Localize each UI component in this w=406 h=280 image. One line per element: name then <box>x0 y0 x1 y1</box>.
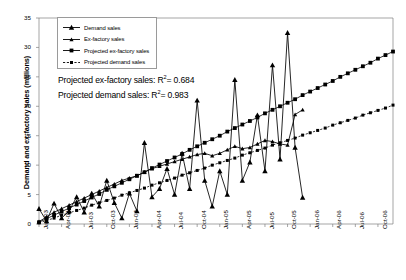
legend-item-demand-sales[interactable]: Demand sales <box>62 22 120 33</box>
legend-label: Demand sales <box>84 25 120 31</box>
superscript: 2 <box>157 89 160 95</box>
chart-container: Demand and ex-factory sales (millions) 0… <box>0 0 406 280</box>
superscript: 2 <box>164 74 167 80</box>
series-projected-demand-sales <box>38 104 395 225</box>
annotation-r2-exfactory: Projected ex-factory sales: R2= 0.684 <box>58 74 194 85</box>
legend-swatch-icon <box>62 35 81 44</box>
legend-item-ex-factory-sales[interactable]: Ex-factory sales <box>62 34 124 45</box>
legend-label: Projected ex-factory sales <box>84 48 149 54</box>
legend-label: Ex-factory sales <box>84 36 124 42</box>
legend-item-projected-demand-sales[interactable]: Projected demand sales <box>62 57 145 68</box>
legend-label: Projected demand sales <box>84 59 145 65</box>
legend-item-projected-ex-factory-sales[interactable]: Projected ex-factory sales <box>62 45 149 56</box>
legend: Demand salesEx-factory salesProjected ex… <box>57 17 157 69</box>
legend-swatch-icon <box>62 46 81 55</box>
legend-swatch-icon <box>62 23 81 32</box>
annotation-r2-demand: Projected demand sales: R2= 0.983 <box>58 89 188 100</box>
legend-swatch-icon <box>62 58 81 67</box>
